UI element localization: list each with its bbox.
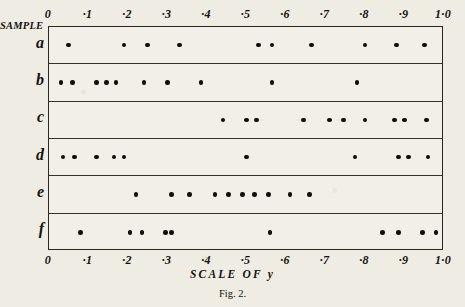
sample-row-label-f: f	[0, 220, 44, 238]
data-point	[140, 230, 145, 235]
x-axis-title: SCALE OF y	[0, 268, 465, 280]
figure-caption: Fig. 2.	[0, 288, 465, 299]
data-point	[396, 155, 401, 160]
scale-tick-label: ·7	[320, 6, 330, 22]
data-point	[94, 155, 99, 160]
scale-tick-label: ·1	[83, 252, 93, 268]
data-point	[72, 155, 77, 160]
data-point	[266, 192, 271, 197]
sample-row-label-c: c	[0, 108, 44, 126]
data-point	[288, 192, 293, 197]
data-point	[396, 230, 401, 235]
scale-tick-label: 1·0	[435, 252, 451, 268]
data-point	[244, 118, 249, 123]
scale-tick-label: ·8	[359, 6, 369, 22]
data-point	[252, 192, 257, 197]
data-point	[363, 43, 368, 48]
scale-tick-label: ·1	[83, 6, 93, 22]
data-point	[142, 80, 147, 85]
data-point	[426, 155, 431, 160]
scale-tick-label: ·6	[280, 252, 290, 268]
sample-row-label-e: e	[0, 183, 44, 201]
data-point	[226, 192, 231, 197]
data-point	[145, 43, 150, 48]
top-scale-axis: 0·1·2·3·4·5·6·7·8·91·0	[0, 6, 465, 22]
scale-tick-label: ·4	[201, 6, 211, 22]
data-point	[94, 80, 99, 85]
data-point	[363, 118, 368, 123]
data-point	[163, 230, 168, 235]
data-point	[122, 155, 127, 160]
sample-row-label-b: b	[0, 71, 44, 89]
sample-row-label-a: a	[0, 34, 44, 52]
data-point	[221, 118, 226, 123]
data-point	[244, 155, 249, 160]
data-point	[177, 43, 182, 48]
data-point	[128, 230, 133, 235]
data-point	[70, 80, 75, 85]
data-point	[122, 43, 127, 48]
data-point	[256, 43, 261, 48]
figure-2-dot-strip-chart: 0·1·2·3·4·5·6·7·8·91·0 SAMPLE 0·1·2·3·4·…	[0, 0, 465, 307]
data-point	[66, 43, 71, 48]
sample-row-a	[49, 27, 442, 64]
data-point	[169, 230, 174, 235]
sample-axis-heading: SAMPLE	[0, 20, 46, 31]
data-point	[424, 118, 429, 123]
data-point	[169, 192, 174, 197]
sample-row-f	[49, 214, 442, 251]
data-point	[309, 43, 314, 48]
scale-tick-label: ·3	[162, 6, 172, 22]
sample-row-d	[49, 139, 442, 176]
data-point	[355, 80, 360, 85]
scale-tick-label: ·4	[201, 252, 211, 268]
data-point	[270, 43, 275, 48]
data-point	[114, 80, 119, 85]
data-point	[327, 118, 332, 123]
scale-tick-label: ·8	[359, 252, 369, 268]
data-point	[240, 192, 245, 197]
data-point	[341, 118, 346, 123]
data-point	[134, 192, 139, 197]
scale-tick-label: 1·0	[435, 6, 451, 22]
data-point	[187, 192, 192, 197]
data-point	[61, 155, 66, 160]
data-point	[301, 118, 306, 123]
scale-tick-label: ·2	[122, 252, 132, 268]
scale-tick-label: ·3	[162, 252, 172, 268]
data-point	[59, 80, 64, 85]
scale-tick-label: ·7	[320, 252, 330, 268]
scale-tick-label: 0	[45, 252, 51, 268]
data-point	[104, 80, 109, 85]
sample-row-e	[49, 176, 442, 213]
data-point	[406, 155, 411, 160]
data-point	[270, 80, 275, 85]
bottom-scale-axis: 0·1·2·3·4·5·6·7·8·91·0	[0, 252, 465, 268]
data-point	[165, 80, 170, 85]
data-point	[78, 230, 83, 235]
data-point	[394, 43, 399, 48]
plot-frame	[48, 26, 443, 250]
data-point	[254, 118, 259, 123]
data-point	[112, 155, 117, 160]
data-point	[213, 192, 218, 197]
sample-row-c	[49, 102, 442, 139]
data-point	[422, 43, 427, 48]
data-point	[307, 192, 312, 197]
data-point	[402, 118, 407, 123]
scale-tick-label: ·5	[241, 252, 251, 268]
data-point	[380, 230, 385, 235]
scale-tick-label: ·6	[280, 6, 290, 22]
data-point	[268, 230, 273, 235]
scale-tick-label: ·5	[241, 6, 251, 22]
sample-row-label-d: d	[0, 146, 44, 164]
sample-row-b	[49, 64, 442, 101]
scale-tick-label: ·9	[399, 252, 409, 268]
scale-tick-label: ·9	[399, 6, 409, 22]
data-point	[420, 230, 425, 235]
data-point	[199, 80, 204, 85]
data-point	[434, 230, 439, 235]
data-point	[392, 118, 397, 123]
scale-tick-label: ·2	[122, 6, 132, 22]
data-point	[353, 155, 358, 160]
